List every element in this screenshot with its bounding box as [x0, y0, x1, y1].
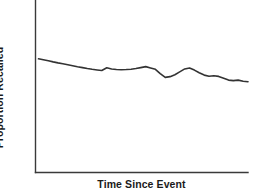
x-axis-label: Time Since Event: [35, 178, 248, 190]
data-series-line: [39, 59, 249, 82]
x-axis-label-text: Time Since Event: [97, 178, 185, 190]
chart-figure: Proportion Recalled Time Since Event: [0, 0, 263, 195]
chart-canvas: [0, 0, 263, 195]
